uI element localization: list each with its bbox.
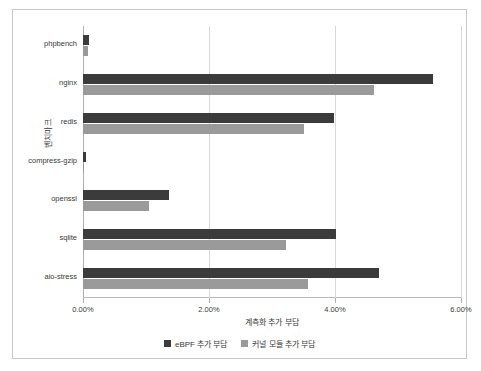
bar-sqlite-kernel-module xyxy=(83,240,286,250)
bar-group: redis xyxy=(83,113,461,134)
bar-aio-stress-ebpf xyxy=(83,268,379,278)
bar-openssl-kernel-module xyxy=(83,201,149,211)
bar-group: aio-stress xyxy=(83,268,461,289)
chart-legend: eBPF 추가 부담커널 모듈 추가 부담 xyxy=(13,338,466,349)
category-label-sqlite: sqlite xyxy=(59,233,77,242)
legend-item[interactable]: 커널 모듈 추가 부담 xyxy=(241,338,315,349)
legend-swatch-icon xyxy=(241,340,248,347)
category-label-nginx: nginx xyxy=(59,78,77,87)
plot-area: phpbenchnginxrediscompress-gzipopensslsq… xyxy=(83,26,461,298)
tick-mark xyxy=(461,298,462,303)
x-tick-label: 0.00% xyxy=(72,305,93,314)
bar-redis-kernel-module xyxy=(83,124,304,134)
bar-nginx-kernel-module xyxy=(83,85,374,95)
legend-label: eBPF 추가 부담 xyxy=(175,338,227,349)
bar-phpbench-kernel-module xyxy=(83,46,88,56)
bar-compress-gzip-kernel-module xyxy=(83,163,84,173)
bar-group: sqlite xyxy=(83,229,461,250)
bar-nginx-ebpf xyxy=(83,74,433,84)
x-tick-label: 6.00% xyxy=(450,305,471,314)
category-label-openssl: openssl xyxy=(51,194,77,203)
category-label-phpbench: phpbench xyxy=(44,39,77,48)
tick-mark xyxy=(83,298,84,303)
category-label-compress-gzip: compress-gzip xyxy=(28,156,77,165)
category-label-aio-stress: aio-stress xyxy=(44,272,77,281)
bar-compress-gzip-ebpf xyxy=(83,152,86,162)
tick-mark xyxy=(209,298,210,303)
bar-openssl-ebpf xyxy=(83,190,169,200)
x-axis-title: 계측화 추가 부담 xyxy=(83,316,461,327)
bar-group: phpbench xyxy=(83,35,461,56)
x-tick-label: 2.00% xyxy=(198,305,219,314)
bar-aio-stress-kernel-module xyxy=(83,279,308,289)
bar-group: openssl xyxy=(83,190,461,211)
x-tick-label: 4.00% xyxy=(324,305,345,314)
chart-frame: 벤치마크 phpbenchnginxrediscompress-gzipopen… xyxy=(12,9,467,359)
bar-sqlite-ebpf xyxy=(83,229,336,239)
legend-label: 커널 모듈 추가 부담 xyxy=(252,338,315,349)
tick-mark xyxy=(335,298,336,303)
bar-group: compress-gzip xyxy=(83,152,461,173)
x-axis-line xyxy=(83,297,461,298)
category-label-redis: redis xyxy=(61,117,77,126)
bar-redis-ebpf xyxy=(83,113,334,123)
bar-phpbench-ebpf xyxy=(83,35,89,45)
bar-group: nginx xyxy=(83,74,461,95)
gridline-6.00% xyxy=(461,26,462,298)
legend-swatch-icon xyxy=(164,340,171,347)
legend-item[interactable]: eBPF 추가 부담 xyxy=(164,338,227,349)
